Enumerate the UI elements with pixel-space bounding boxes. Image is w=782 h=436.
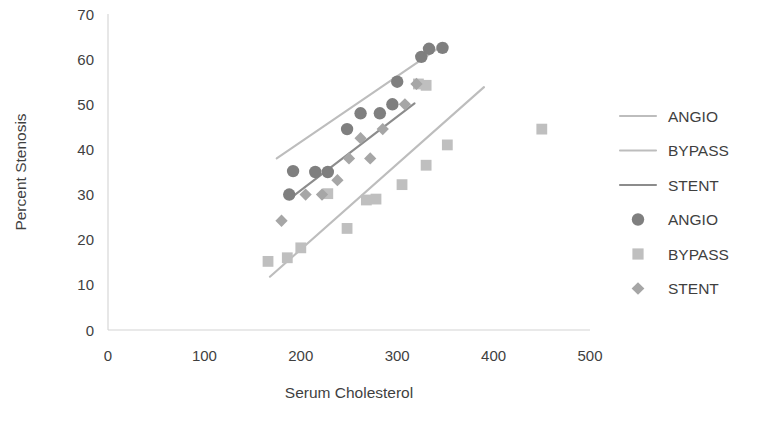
legend-label: ANGIO bbox=[668, 108, 718, 125]
legend-item-line-stent[interactable]: STENT bbox=[620, 177, 719, 194]
legend-item-line-bypass[interactable]: BYPASS bbox=[620, 142, 729, 159]
y-tick-label: 70 bbox=[77, 6, 94, 23]
data-point bbox=[343, 152, 355, 164]
x-axis-title: Serum Cholesterol bbox=[285, 384, 413, 401]
legend-item-diamond-stent[interactable]: STENT bbox=[632, 280, 720, 297]
x-tick-label: 100 bbox=[192, 347, 217, 364]
x-tick-label: 200 bbox=[288, 347, 313, 364]
y-tick-label: 30 bbox=[77, 186, 94, 203]
trendline-stent bbox=[289, 103, 414, 199]
y-tick-label: 60 bbox=[77, 51, 94, 68]
data-point bbox=[421, 80, 432, 91]
data-point bbox=[371, 194, 382, 205]
x-tick-label: 400 bbox=[481, 347, 506, 364]
y-tick-label: 50 bbox=[77, 96, 94, 113]
legend-swatch-square-icon bbox=[632, 248, 643, 259]
data-point bbox=[436, 42, 448, 54]
legend-label: BYPASS bbox=[668, 246, 729, 263]
data-point bbox=[309, 166, 321, 178]
data-point bbox=[275, 215, 287, 227]
data-point bbox=[354, 107, 366, 119]
data-point bbox=[282, 252, 293, 263]
data-point bbox=[283, 188, 295, 200]
x-tick-label: 0 bbox=[104, 347, 112, 364]
y-tick-label: 20 bbox=[77, 231, 94, 248]
data-point bbox=[374, 107, 386, 119]
data-point bbox=[442, 140, 453, 151]
x-tick-label: 500 bbox=[577, 347, 602, 364]
y-tick-label: 10 bbox=[77, 276, 94, 293]
y-tick-label: 40 bbox=[77, 141, 94, 158]
data-points bbox=[263, 42, 548, 267]
chart-legend: ANGIOBYPASSSTENTANGIOBYPASSSTENT bbox=[620, 108, 729, 298]
legend-item-line-angio[interactable]: ANGIO bbox=[620, 108, 718, 125]
series-angio-circle bbox=[283, 42, 449, 201]
legend-item-square-bypass[interactable]: BYPASS bbox=[632, 246, 728, 263]
data-point bbox=[331, 174, 343, 186]
legend-swatch-circle-icon bbox=[632, 213, 644, 225]
legend-label: STENT bbox=[668, 280, 719, 297]
data-point bbox=[295, 242, 306, 253]
y-axis-tick-labels: 010203040506070 bbox=[77, 6, 94, 339]
y-tick-label: 0 bbox=[86, 322, 94, 339]
data-point bbox=[287, 165, 299, 177]
data-point bbox=[386, 98, 398, 110]
data-point bbox=[397, 179, 408, 190]
legend-swatch-diamond-icon bbox=[632, 282, 645, 295]
trendlines bbox=[270, 43, 484, 276]
data-point bbox=[342, 223, 353, 234]
data-point bbox=[361, 195, 372, 206]
scatter-chart: 010203040506070 0100200300400500 ANGIOBY… bbox=[0, 0, 782, 436]
legend-label: ANGIO bbox=[668, 211, 718, 228]
data-point bbox=[421, 160, 432, 171]
x-axis-tick-labels: 0100200300400500 bbox=[104, 347, 603, 364]
legend-item-circle-angio[interactable]: ANGIO bbox=[632, 211, 718, 228]
data-point bbox=[364, 152, 376, 164]
data-point bbox=[391, 76, 403, 88]
series-stent-diamond bbox=[275, 78, 422, 227]
data-point bbox=[423, 43, 435, 55]
chart-canvas: 010203040506070 0100200300400500 ANGIOBY… bbox=[0, 0, 782, 436]
axis-lines bbox=[108, 14, 590, 330]
legend-label: BYPASS bbox=[668, 142, 729, 159]
data-point bbox=[536, 124, 547, 135]
data-point bbox=[263, 256, 274, 267]
legend-label: STENT bbox=[668, 177, 719, 194]
data-point bbox=[341, 123, 353, 135]
x-tick-label: 300 bbox=[385, 347, 410, 364]
data-point bbox=[322, 166, 334, 178]
y-axis-title: Percent Stenosis bbox=[12, 113, 29, 230]
